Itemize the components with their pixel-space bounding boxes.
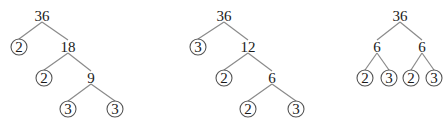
tree-edge (248, 53, 272, 71)
prime-factor-node: 2 (240, 101, 256, 117)
tree-edge (411, 53, 422, 70)
composite-node: 36 (35, 8, 51, 24)
node-label: 2 (361, 70, 369, 86)
tree-2: 363122623 (190, 8, 304, 117)
tree-edge (224, 22, 248, 40)
node-label: 3 (430, 70, 438, 86)
factor-trees-diagram: 36218293336312262336662323 (0, 0, 448, 126)
tree-3: 36662323 (357, 8, 442, 86)
node-label: 3 (111, 101, 119, 117)
tree-edge (272, 84, 296, 101)
node-label: 2 (220, 70, 228, 86)
prime-factor-node: 2 (11, 39, 27, 55)
node-label: 2 (244, 101, 252, 117)
tree-edge (19, 22, 42, 39)
node-label: 36 (217, 8, 233, 24)
prime-factor-node: 2 (36, 70, 52, 86)
composite-node: 6 (268, 70, 276, 86)
composite-node: 9 (87, 70, 95, 86)
prime-factor-node: 3 (426, 70, 442, 86)
node-label: 2 (15, 39, 23, 55)
composite-node: 36 (217, 8, 233, 24)
prime-factor-node: 2 (403, 70, 419, 86)
composite-node: 18 (61, 39, 76, 55)
prime-factor-node: 3 (190, 39, 206, 55)
tree-edge (198, 22, 224, 39)
node-label: 3 (385, 70, 393, 86)
node-label: 12 (241, 39, 256, 55)
tree-edge (68, 53, 91, 71)
composite-node: 36 (393, 8, 409, 24)
node-label: 3 (64, 101, 72, 117)
tree-edge (422, 53, 434, 70)
node-label: 6 (418, 39, 426, 55)
node-label: 36 (35, 8, 51, 24)
tree-edge (248, 84, 272, 101)
composite-node: 6 (418, 39, 426, 55)
prime-factor-node: 2 (357, 70, 373, 86)
tree-edge (224, 53, 248, 70)
tree-edge (400, 22, 422, 40)
node-label: 6 (373, 39, 381, 55)
node-label: 2 (407, 70, 415, 86)
tree-edge (377, 22, 400, 40)
node-label: 6 (268, 70, 276, 86)
prime-factor-node: 3 (60, 101, 76, 117)
node-label: 36 (393, 8, 409, 24)
prime-factor-node: 3 (288, 101, 304, 117)
tree-edge (91, 84, 115, 101)
prime-factor-node: 3 (381, 70, 397, 86)
tree-edge (377, 53, 389, 70)
tree-edge (44, 53, 68, 70)
prime-factor-node: 2 (216, 70, 232, 86)
composite-node: 12 (241, 39, 256, 55)
tree-edge (365, 53, 377, 70)
node-label: 3 (292, 101, 300, 117)
node-label: 3 (194, 39, 202, 55)
composite-node: 6 (373, 39, 381, 55)
factor-trees-svg: 36218293336312262336662323 (0, 0, 448, 126)
prime-factor-node: 3 (107, 101, 123, 117)
tree-edge (68, 84, 91, 101)
node-label: 18 (61, 39, 76, 55)
tree-edge (42, 22, 68, 40)
node-label: 2 (40, 70, 48, 86)
tree-1: 362182933 (11, 8, 123, 117)
node-label: 9 (87, 70, 95, 86)
